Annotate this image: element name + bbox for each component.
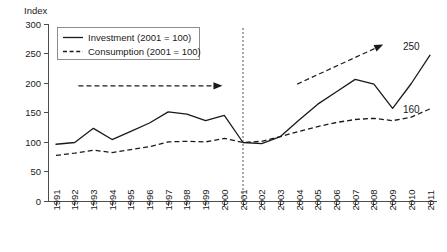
x-tick-label-2005: 2005	[312, 189, 323, 210]
investment-trend-arrow	[297, 45, 383, 85]
x-tick-label-1992: 1992	[69, 189, 80, 210]
x-tick-label-2009: 2009	[387, 189, 398, 210]
x-tick-label-1993: 1993	[88, 189, 99, 210]
investment-trend-arrow-head	[374, 45, 384, 52]
x-tick-label-2007: 2007	[350, 189, 361, 210]
x-tick-label-1996: 1996	[144, 189, 155, 210]
x-tick-label-1995: 1995	[125, 189, 136, 210]
y-tick-label-300: 300	[25, 19, 41, 30]
y-axis-ticks: 300 250 200 150 100 50 0	[25, 19, 48, 207]
y-tick-label-150: 150	[25, 107, 41, 118]
x-tick-label-1997: 1997	[163, 189, 174, 210]
legend-label-consumption: Consumption (2001 = 100)	[88, 46, 201, 57]
x-tick-label-2010: 2010	[406, 189, 417, 210]
y-tick-label-250: 250	[25, 48, 41, 59]
y-tick-label-200: 200	[25, 78, 41, 89]
x-tick-label-1991: 1991	[51, 189, 62, 210]
chart-container: Index 300 250 200 150 100 50 0 199119921…	[0, 0, 447, 252]
line-chart: Index 300 250 200 150 100 50 0 199119921…	[0, 0, 447, 252]
chart-legend: Investment (2001 = 100) Consumption (200…	[58, 28, 201, 60]
x-tick-label-2006: 2006	[331, 189, 342, 210]
legend-label-investment: Investment (2001 = 100)	[88, 32, 191, 43]
x-tick-label-1999: 1999	[200, 189, 211, 210]
investment-trend-arrow-shaft	[297, 48, 375, 84]
y-tick-label-0: 0	[36, 196, 41, 207]
x-tick-label-1998: 1998	[181, 189, 192, 210]
x-tick-label-2011: 2011	[425, 190, 436, 210]
x-tick-label-1994: 1994	[107, 189, 118, 210]
x-tick-label-2002: 2002	[256, 189, 267, 210]
x-tick-label-2008: 2008	[368, 189, 379, 210]
x-tick-label-2000: 2000	[219, 189, 230, 210]
consumption-end-value: 160	[403, 104, 420, 115]
consumption-trend-arrow	[78, 82, 222, 89]
consumption-trend-arrow-head	[213, 82, 222, 89]
investment-end-value: 250	[403, 41, 420, 52]
y-axis-title: Index	[24, 5, 47, 16]
x-tick-label-2004: 2004	[294, 189, 305, 210]
y-tick-label-50: 50	[30, 166, 41, 177]
y-tick-label-100: 100	[25, 137, 41, 148]
x-tick-label-2003: 2003	[275, 189, 286, 210]
